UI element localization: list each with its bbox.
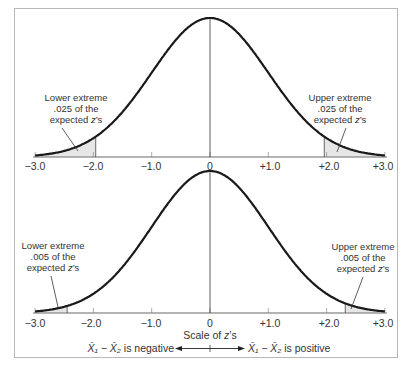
- tick-label: +3.0: [373, 160, 394, 172]
- top-lower-annotation: Lower extreme .025 of the expected z’s: [45, 92, 108, 151]
- annotation-line: Lower extreme: [22, 240, 85, 251]
- x-axis-title: Scale of z’s: [183, 329, 237, 341]
- annotation-line: .025 of the: [318, 103, 363, 114]
- annotation-line: .005 of the: [31, 251, 76, 262]
- tick-label: +1.0: [260, 317, 281, 329]
- annotation-pointer: [62, 128, 78, 151]
- top-upper-annotation: Upper extreme .025 of the expected z’s: [309, 92, 372, 152]
- tick-label: +2.0: [319, 160, 340, 172]
- bottom-chart: −3.0 −2.0 −1.0 0 +1.0 +2.0 +3.0 Lower ex…: [22, 171, 395, 354]
- annotation-pointer: [51, 276, 58, 307]
- annotation-line: expected z’s: [337, 263, 390, 274]
- annotation-line: Upper extreme: [309, 92, 372, 103]
- tick-label: −2.0: [81, 317, 102, 329]
- annotation-line: expected z’s: [50, 114, 103, 125]
- annotation-line: expected z’s: [314, 114, 367, 125]
- tick-label: −1.0: [141, 160, 162, 172]
- tick-label: −2.0: [83, 160, 104, 172]
- annotation-line: .005 of the: [341, 252, 386, 263]
- tick-label: +3.0: [373, 317, 394, 329]
- tick-label: 0: [207, 317, 213, 329]
- tick-label: −1.0: [141, 317, 162, 329]
- tick-label: +1.0: [260, 160, 281, 172]
- bottom-tick-labels: −3.0 −2.0 −1.0 0 +1.0 +2.0 +3.0: [25, 317, 394, 329]
- normal-curves-figure: −3.0 −2.0 −1.0 0 +1.0 +2.0 +3.0 Lower ex…: [0, 0, 408, 371]
- tick-label: −3.0: [25, 317, 46, 329]
- top-chart: −3.0 −2.0 −1.0 0 +1.0 +2.0 +3.0 Lower ex…: [25, 18, 394, 172]
- annotation-line: expected z’s: [27, 262, 80, 273]
- annotation-line: .025 of the: [54, 103, 99, 114]
- positive-direction-label: X̄₁ − X̄₂ is positive: [247, 342, 330, 354]
- tick-label: −3.0: [25, 160, 46, 172]
- negative-direction-label: X̄₁ − X̄₂ is negative: [87, 342, 175, 354]
- annotation-line: Lower extreme: [45, 92, 108, 103]
- bottom-lower-annotation: Lower extreme .005 of the expected z’s: [22, 240, 85, 307]
- arrow-right-head: [238, 346, 245, 351]
- tick-label: +2.0: [319, 317, 340, 329]
- annotation-line: Upper extreme: [332, 241, 395, 252]
- annotation-pointer: [351, 277, 363, 309]
- arrow-left-head: [175, 346, 182, 351]
- bottom-upper-annotation: Upper extreme .005 of the expected z’s: [332, 241, 395, 309]
